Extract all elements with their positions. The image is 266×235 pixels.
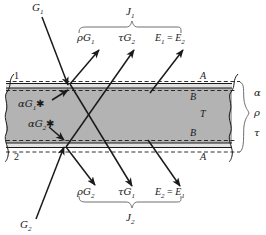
label-incident-G2: G2 <box>20 219 31 233</box>
label-layer-B-top: B <box>190 92 196 102</box>
label-absorption-alphaG2: αG2✱ <box>28 119 54 132</box>
label-surface-2: 2 <box>14 152 19 162</box>
label-layer-A-bottom: A <box>200 152 206 162</box>
ray-reflected-rhoG2 <box>66 147 95 185</box>
label-layer-B-bottom: B <box>190 128 196 138</box>
label-top-flux-emission: E1 = E2 <box>155 33 185 46</box>
label-radiosity-J1: J1 <box>126 6 134 20</box>
brace-properties-path <box>240 82 249 152</box>
label-property-rho: ρ <box>254 108 260 118</box>
label-radiosity-J2: J2 <box>126 212 134 226</box>
ray-incident-G1 <box>42 17 68 85</box>
slab-core-fill <box>6 88 232 143</box>
label-surface-1: 1 <box>14 71 19 81</box>
label-layer-A-top: A <box>200 71 206 81</box>
label-absorption-alphaG1: αG1✱ <box>18 99 44 112</box>
slab-body <box>6 84 232 148</box>
label-top-flux-transmitted: τG2 <box>118 33 135 46</box>
label-property-alpha: α <box>254 88 261 98</box>
label-bottom-flux-reflected: ρG2 <box>77 187 94 200</box>
figure-canvas: G1 G2 J1 ρG1 τG2 E1 = E2 J2 ρG2 τG1 E2 =… <box>0 0 266 235</box>
label-incident-G1: G1 <box>32 2 43 16</box>
ray-incident-G2 <box>36 147 64 219</box>
ray-reflected-rhoG1 <box>70 50 99 84</box>
slab-bottom-film <box>6 143 232 148</box>
label-bottom-flux-transmitted: τG1 <box>118 187 135 200</box>
brace-properties <box>240 82 249 152</box>
label-layer-T-core: T <box>200 109 206 119</box>
label-top-flux-reflected: ρG1 <box>77 33 94 46</box>
slab-top-film <box>6 84 232 89</box>
label-property-tau: τ <box>254 128 260 138</box>
label-bottom-flux-emission: E2 = E1 <box>155 187 185 200</box>
